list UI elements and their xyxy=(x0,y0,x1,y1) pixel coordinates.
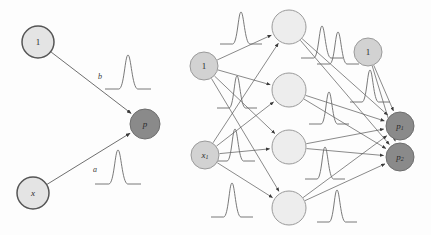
weight-distribution-a xyxy=(95,150,141,184)
weight-distribution-r10 xyxy=(350,70,390,102)
network-diagram-canvas: 1xp ba 1x11p1p2 xyxy=(0,0,431,235)
figure-root: 1xp ba 1x11p1p2 xyxy=(0,0,431,235)
edge-bias-h4 xyxy=(211,78,279,191)
edge-h3-p2 xyxy=(306,149,383,156)
input-node-x1: x1 xyxy=(191,141,219,169)
hidden-node-3 xyxy=(272,130,306,164)
weight-distribution-r1 xyxy=(220,12,262,44)
edge-bias-to-p-label: b xyxy=(98,72,102,81)
weight-distribution-r4 xyxy=(211,183,253,217)
hidden-node-4 xyxy=(272,191,306,225)
edge-bias-to-p xyxy=(51,52,131,113)
edge-bias-h2 xyxy=(218,70,270,85)
weight-distribution-r6 xyxy=(317,32,359,64)
edge-h3-p1 xyxy=(306,129,384,144)
left-panel-nodes: 1xp xyxy=(17,26,160,209)
weight-distribution-r9 xyxy=(317,190,357,222)
weight-distribution-b xyxy=(105,55,151,89)
input-node-x: x xyxy=(17,177,49,209)
hidden-node-1 xyxy=(272,10,306,44)
edge-bias-h3 xyxy=(214,76,274,134)
edge-h4-p1 xyxy=(303,136,387,198)
bias-node-input-layer: 1 xyxy=(190,52,218,80)
bias-node: 1 xyxy=(22,26,54,58)
output-node-p: p xyxy=(130,109,160,139)
weight-distribution-r5 xyxy=(301,26,343,58)
weight-distribution-r3 xyxy=(215,129,255,161)
edge-h4-p2 xyxy=(305,164,385,201)
edge-bias-h1 xyxy=(217,35,271,60)
weight-distribution-r7 xyxy=(309,92,349,124)
hidden-node-2 xyxy=(272,73,306,107)
bias-node-output-layer: 1 xyxy=(354,38,382,66)
edge-x1-h4 xyxy=(217,163,272,198)
edge-x1-h3 xyxy=(219,149,269,154)
edge-x-to-p xyxy=(47,133,130,184)
output-node-p1: p1 xyxy=(386,112,414,140)
left-panel-edges xyxy=(47,52,131,184)
output-node-p2: p2 xyxy=(386,143,414,171)
edge-h2-p1 xyxy=(306,95,385,121)
edge-x-to-p-label: a xyxy=(93,165,97,174)
weight-distribution-r2 xyxy=(217,76,257,108)
